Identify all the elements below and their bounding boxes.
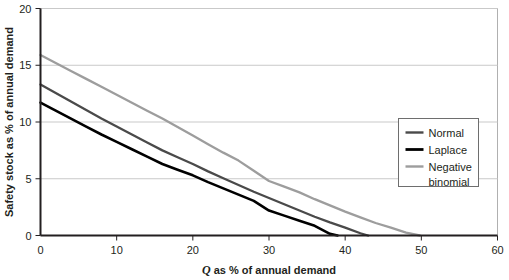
y-tick-label-15: 15 xyxy=(19,59,31,71)
y-tick-label-5: 5 xyxy=(25,173,31,185)
y-tick-label-0: 0 xyxy=(25,230,31,242)
legend-label-binomial: binomial xyxy=(429,176,470,188)
x-tick-label-40: 40 xyxy=(339,244,351,256)
legend-label-laplace: Laplace xyxy=(429,144,468,156)
x-tick-label-0: 0 xyxy=(37,244,43,256)
x-tick-label-30: 30 xyxy=(263,244,275,256)
chart-container: 010203040506005101520Q as % of annual de… xyxy=(0,0,509,280)
y-tick-label-10: 10 xyxy=(19,116,31,128)
legend-label-normal: Normal xyxy=(429,127,464,139)
y-tick-label-20: 20 xyxy=(19,3,31,15)
y-axis-title: Safety stock as % of annual demand xyxy=(3,27,15,217)
x-tick-label-20: 20 xyxy=(187,244,199,256)
chart-svg: 010203040506005101520Q as % of annual de… xyxy=(0,0,509,280)
series-line-negative-binomial xyxy=(41,55,420,235)
x-tick-label-50: 50 xyxy=(415,244,427,256)
x-tick-label-60: 60 xyxy=(491,244,503,256)
x-axis-title: Q as % of annual demand xyxy=(202,263,336,277)
x-tick-label-10: 10 xyxy=(111,244,123,256)
series-line-laplace xyxy=(41,103,338,236)
series-line-normal xyxy=(41,85,369,236)
legend-label-negative: Negative xyxy=(429,161,472,173)
